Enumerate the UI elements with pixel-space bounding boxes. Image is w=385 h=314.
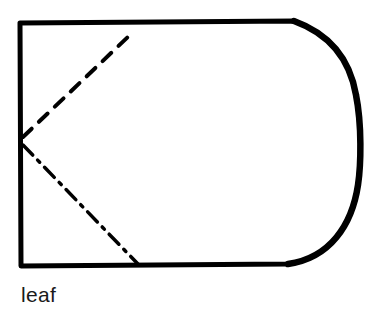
leaf-outline xyxy=(20,21,360,266)
upper-fold-line xyxy=(23,34,131,137)
leaf-right-curve xyxy=(288,21,360,264)
diagram-caption: leaf xyxy=(21,283,56,307)
leaf-diagram xyxy=(0,0,385,314)
lower-fold-line xyxy=(23,145,138,264)
